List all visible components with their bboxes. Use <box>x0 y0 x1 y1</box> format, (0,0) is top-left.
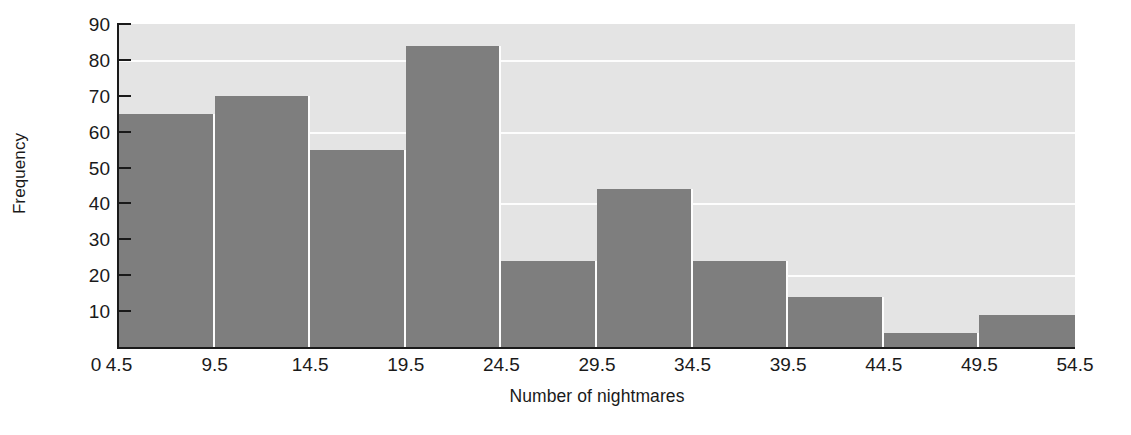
y-tick-mark <box>117 238 131 240</box>
histogram-bar <box>979 315 1075 347</box>
x-tick-label: 0 <box>91 352 102 378</box>
x-tick-label: 54.5 <box>1057 352 1094 378</box>
y-tick-label: 40 <box>89 194 110 213</box>
x-tick-label: 34.5 <box>674 352 711 378</box>
x-tick-label: 29.5 <box>579 352 616 378</box>
x-tick-label: 39.5 <box>770 352 807 378</box>
histogram-bar <box>406 46 502 347</box>
histogram-bar <box>693 261 789 347</box>
histogram-figure: Frequency 102030405060708090 04.59.514.5… <box>0 0 1131 435</box>
x-tick-label: 9.5 <box>201 352 227 378</box>
y-tick-label: 30 <box>89 230 110 249</box>
bar-series <box>119 24 1075 347</box>
y-tick-label: 50 <box>89 158 110 177</box>
x-tick-label: 44.5 <box>865 352 902 378</box>
y-tick-mark <box>117 131 131 133</box>
y-tick-mark <box>117 59 131 61</box>
x-tick-label: 14.5 <box>292 352 329 378</box>
y-tick-label: 10 <box>89 302 110 321</box>
x-tick-label: 19.5 <box>387 352 424 378</box>
x-tick-label: 4.5 <box>106 352 132 378</box>
histogram-bar <box>597 189 693 347</box>
x-tick-label: 49.5 <box>961 352 998 378</box>
y-tick-label: 70 <box>89 86 110 105</box>
y-tick-mark <box>117 310 131 312</box>
histogram-bar <box>215 96 311 347</box>
x-axis-title: Number of nightmares <box>119 386 1075 407</box>
y-axis-tick-labels: 102030405060708090 <box>58 24 110 347</box>
plot-area <box>119 24 1075 347</box>
y-tick-mark <box>117 167 131 169</box>
y-tick-label: 20 <box>89 266 110 285</box>
histogram-bar <box>788 297 884 347</box>
histogram-bar <box>884 333 980 347</box>
histogram-bar <box>119 114 215 347</box>
y-tick-label: 80 <box>89 50 110 69</box>
x-axis-line <box>117 347 1075 349</box>
histogram-bar <box>310 150 406 347</box>
x-axis-tick-labels: 04.59.514.519.524.529.534.539.544.549.55… <box>0 352 1131 382</box>
y-tick-mark <box>117 274 131 276</box>
y-tick-mark <box>117 23 131 25</box>
y-tick-mark <box>117 202 131 204</box>
y-tick-label: 90 <box>89 15 110 34</box>
histogram-bar <box>501 261 597 347</box>
y-tick-label: 60 <box>89 122 110 141</box>
y-axis-title: Frequency <box>0 0 40 347</box>
x-tick-label: 24.5 <box>483 352 520 378</box>
y-tick-mark <box>117 95 131 97</box>
